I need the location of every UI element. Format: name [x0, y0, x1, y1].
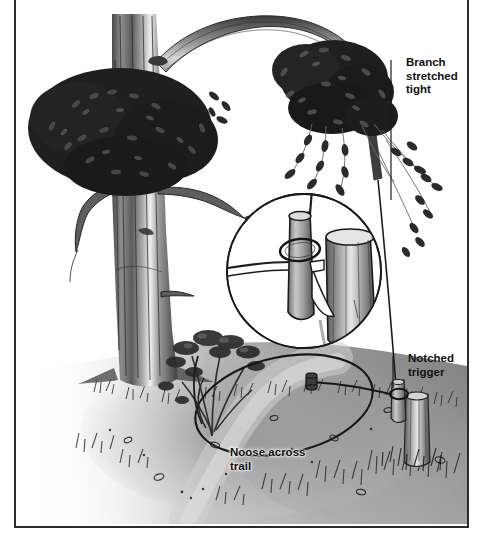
- trigger-detail-inset: [227, 190, 381, 350]
- illustration-frame: Branch stretched tight Notched trigger N…: [14, 0, 469, 528]
- right-canopy-foliage: [272, 40, 398, 136]
- illustration-page: blurred cropped caption text: [0, 0, 482, 536]
- label-notched-trigger: Notched trigger: [408, 352, 454, 379]
- label-noose-across-trail: Noose across trail: [230, 446, 305, 473]
- noose-knot: [306, 373, 317, 390]
- left-canopy-foliage: [28, 68, 232, 196]
- label-branch-stretched-tight: Branch stretched tight: [406, 56, 458, 97]
- illustration-canvas: Branch stretched tight Notched trigger N…: [16, 0, 467, 524]
